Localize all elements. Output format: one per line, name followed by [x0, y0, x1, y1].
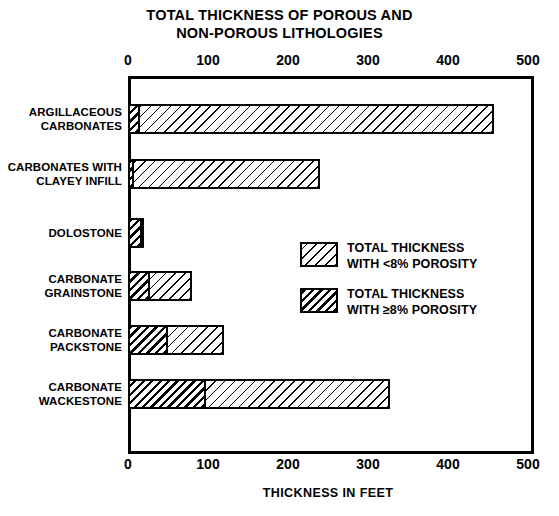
- category-label-line: WACKESTONE: [0, 394, 122, 408]
- x-axis-bottom-tick-labels: 0100200300400500: [0, 456, 559, 472]
- legend-swatch-sparse-hatch: [300, 242, 338, 267]
- category-label-line: CARBONATES WITH: [0, 160, 122, 174]
- legend-label-line: WITH <8% POROSITY: [347, 257, 478, 273]
- legend-label-line: WITH ≥8% POROSITY: [347, 303, 477, 319]
- bar-segment-low-porosity: [166, 325, 224, 355]
- chart-legend: TOTAL THICKNESSWITH <8% POROSITYTOTAL TH…: [300, 241, 540, 333]
- category-label-line: CARBONATE: [0, 380, 122, 394]
- category-label-3: DOLOSTONE: [0, 226, 122, 240]
- x-tick-top-200: 200: [276, 52, 299, 68]
- x-tick-bottom-400: 400: [436, 456, 459, 472]
- bar-segment-low-porosity: [148, 271, 192, 301]
- category-label-line: CLAYEY INFILL: [0, 174, 122, 188]
- category-label-4: CARBONATEGRAINSTONE: [0, 272, 122, 300]
- x-tick-bottom-100: 100: [196, 456, 219, 472]
- x-tick-bottom-300: 300: [356, 456, 379, 472]
- x-axis-top-tick-labels: 0100200300400500: [0, 52, 559, 68]
- legend-label-line: TOTAL THICKNESS: [347, 241, 478, 257]
- chart-title-line-2: NON-POROUS LITHOLOGIES: [0, 24, 559, 42]
- bar-segment-high-porosity: [128, 379, 206, 409]
- category-label-1: ARGILLACEOUSCARBONATES: [0, 105, 122, 133]
- category-label-6: CARBONATEWACKESTONE: [0, 380, 122, 408]
- bar-row: [128, 104, 528, 134]
- bar-segment-low-porosity: [138, 104, 494, 134]
- x-tick-bottom-200: 200: [276, 456, 299, 472]
- bar-row: [128, 379, 528, 409]
- legend-item-2: TOTAL THICKNESSWITH ≥8% POROSITY: [300, 287, 540, 318]
- category-label-line: DOLOSTONE: [0, 226, 122, 240]
- x-tick-top-400: 400: [436, 52, 459, 68]
- legend-label-line: TOTAL THICKNESS: [347, 287, 477, 303]
- x-tick-bottom-500: 500: [516, 456, 539, 472]
- category-label-line: ARGILLACEOUS: [0, 105, 122, 119]
- legend-swatch-dense-hatch: [300, 288, 338, 313]
- x-tick-top-100: 100: [196, 52, 219, 68]
- category-label-line: GRAINSTONE: [0, 286, 122, 300]
- legend-item-1: TOTAL THICKNESSWITH <8% POROSITY: [300, 241, 540, 272]
- bar-segment-low-porosity: [204, 379, 390, 409]
- bar-row: [128, 159, 528, 189]
- category-label-5: CARBONATEPACKSTONE: [0, 326, 122, 354]
- bar-segment-high-porosity: [128, 325, 168, 355]
- x-tick-bottom-0: 0: [124, 456, 132, 472]
- x-tick-top-0: 0: [124, 52, 132, 68]
- legend-label: TOTAL THICKNESSWITH <8% POROSITY: [347, 241, 478, 272]
- chart-title-line-1: TOTAL THICKNESS OF POROUS AND: [0, 6, 559, 24]
- category-label-line: PACKSTONE: [0, 340, 122, 354]
- x-tick-top-500: 500: [516, 52, 539, 68]
- chart-title: TOTAL THICKNESS OF POROUS AND NON-POROUS…: [0, 6, 559, 42]
- category-label-2: CARBONATES WITHCLAYEY INFILL: [0, 160, 122, 188]
- legend-label: TOTAL THICKNESSWITH ≥8% POROSITY: [347, 287, 477, 318]
- bar-segment-low-porosity: [140, 218, 144, 248]
- category-label-line: CARBONATE: [0, 272, 122, 286]
- category-label-line: CARBONATE: [0, 326, 122, 340]
- category-label-line: CARBONATES: [0, 119, 122, 133]
- x-axis-title: THICKNESS IN FEET: [128, 486, 528, 500]
- bar-segment-low-porosity: [132, 159, 320, 189]
- bar-segment-high-porosity: [128, 271, 150, 301]
- x-tick-top-300: 300: [356, 52, 379, 68]
